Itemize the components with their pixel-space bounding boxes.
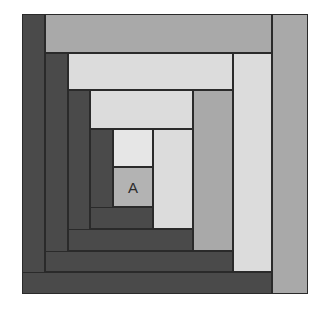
quilt-piece-top-1 xyxy=(45,14,272,53)
quilt-piece-right-3 xyxy=(193,90,233,251)
quilt-piece-bottom-2 xyxy=(45,251,233,272)
quilt-piece-bottom-4 xyxy=(90,207,153,229)
quilt-piece-left-3 xyxy=(68,90,90,251)
quilt-piece-top-3 xyxy=(90,90,193,129)
log-cabin-quilt-block xyxy=(0,0,328,310)
quilt-piece-right-2 xyxy=(233,53,272,272)
quilt-piece-top-2 xyxy=(68,53,233,90)
quilt-piece-right-1 xyxy=(272,14,308,294)
center-label-a: A xyxy=(113,167,153,207)
quilt-piece-top-4 xyxy=(113,129,153,167)
quilt-piece-bottom-1 xyxy=(22,272,272,294)
quilt-piece-left-2 xyxy=(45,53,68,272)
quilt-piece-right-4 xyxy=(153,129,193,229)
quilt-piece-left-1 xyxy=(22,14,45,294)
quilt-piece-bottom-3 xyxy=(68,229,193,251)
